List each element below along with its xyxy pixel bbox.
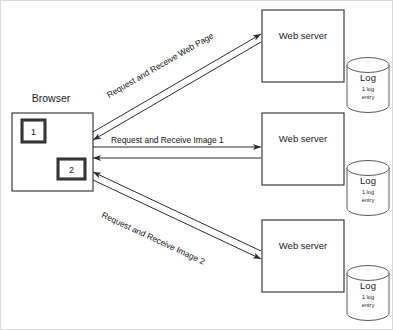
log-store-3-detail-line1: 1 log — [362, 294, 374, 300]
log-store-3[interactable]: Log 1 log entry — [347, 266, 389, 321]
browser-item-2-label: 2 — [69, 165, 74, 175]
log-store-3-title: Log — [360, 280, 376, 291]
log-store-1-title: Log — [360, 72, 376, 83]
connection-web-page-label: Request and Receive Web Page — [105, 30, 215, 100]
web-server-3-label: Web server — [279, 240, 327, 251]
log-store-2-detail-line2: entry — [362, 197, 375, 203]
log-store-2-detail-line1: 1 log — [362, 189, 374, 195]
web-server-2[interactable]: Web server — [262, 113, 344, 185]
connection-image-1: Request and Receive Image 1 — [93, 135, 261, 158]
connection-image-1-label: Request and Receive Image 1 — [111, 135, 224, 145]
log-store-2[interactable]: Log 1 log entry — [347, 161, 389, 216]
web-server-2-label: Web server — [279, 133, 327, 144]
log-store-3-detail-line2: entry — [362, 302, 375, 308]
log-store-1-top — [347, 58, 389, 73]
web-server-1[interactable]: Web server — [262, 10, 344, 82]
web-server-3-box[interactable] — [262, 220, 344, 292]
log-store-2-title: Log — [360, 175, 376, 186]
connection-web-page: Request and Receive Web Page — [93, 30, 261, 140]
browser-item-1-label: 1 — [31, 127, 36, 137]
web-server-2-box[interactable] — [262, 113, 344, 185]
diagram-svg: Request and Receive Web Page Request and… — [1, 1, 393, 330]
web-server-1-label: Web server — [279, 30, 327, 41]
diagram-canvas: Request and Receive Web Page Request and… — [0, 0, 393, 330]
log-store-1[interactable]: Log 1 log entry — [347, 58, 389, 113]
browser-caption: Browser — [32, 92, 71, 104]
web-server-1-box[interactable] — [262, 10, 344, 82]
log-store-1-detail-line1: 1 log — [362, 86, 374, 92]
browser-node[interactable]: Browser 1 2 — [12, 92, 93, 191]
web-server-3[interactable]: Web server — [262, 220, 344, 292]
log-store-3-top — [347, 266, 389, 281]
connection-image-2-line-in — [93, 172, 261, 251]
connection-image-2: Request and Receive Image 2 — [93, 172, 261, 267]
log-store-2-top — [347, 161, 389, 176]
browser-item-1[interactable]: 1 — [21, 119, 46, 143]
browser-item-2[interactable]: 2 — [57, 158, 86, 180]
log-store-1-detail-line2: entry — [362, 94, 375, 100]
